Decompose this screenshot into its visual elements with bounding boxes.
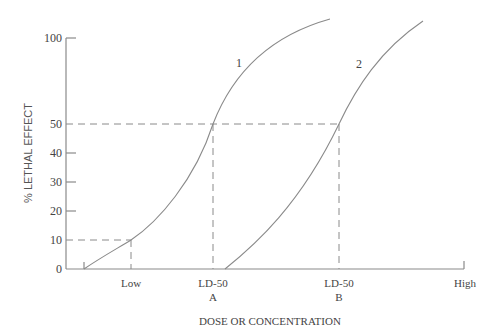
x-tick-label-high: High: [454, 277, 477, 289]
guide-lines: [66, 124, 339, 269]
y-tick-label-100: 100: [44, 31, 62, 45]
curve-1-label: 1: [236, 56, 242, 70]
x-tick-label-b: B: [335, 291, 342, 303]
y-tick-label-10: 10: [50, 233, 62, 247]
curve-2: [225, 21, 423, 269]
x-axis-title: DOSE OR CONCENTRATION: [199, 315, 341, 327]
x-tick-labels: Low LD-50 A LD-50 B High: [121, 277, 477, 303]
y-tick-label-0: 0: [56, 262, 62, 276]
y-tick-label-30: 30: [50, 175, 62, 189]
y-axis-title: % LETHAL EFFECT: [22, 103, 34, 203]
x-tick-label-ld50b: LD-50: [324, 277, 354, 289]
x-tick-label-ld50a: LD-50: [198, 277, 228, 289]
y-tick-labels: 100 50 40 30 20 10 0: [44, 31, 62, 276]
curve-1: [84, 19, 330, 269]
x-tick-label-low: Low: [121, 277, 141, 289]
dose-response-chart: 100 50 40 30 20 10 0 1 2 Low LD-50 A LD-…: [0, 0, 494, 329]
y-tick-label-20: 20: [50, 204, 62, 218]
y-tick-label-50: 50: [50, 117, 62, 131]
curve-2-label: 2: [356, 57, 362, 71]
x-tick-label-a: A: [209, 291, 217, 303]
y-tick-label-40: 40: [50, 146, 62, 160]
axes: [66, 38, 464, 269]
